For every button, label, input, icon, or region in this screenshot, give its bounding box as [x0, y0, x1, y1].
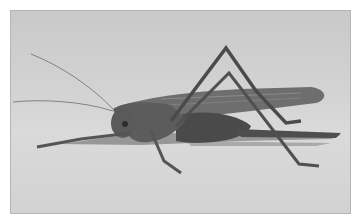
grasshopper-photo [10, 10, 351, 214]
grasshopper-illustration [10, 10, 351, 214]
